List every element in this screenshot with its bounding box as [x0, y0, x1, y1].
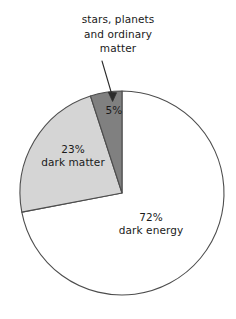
pie-chart-canvas	[0, 0, 236, 319]
pie-chart-figure: stars, planets and ordinary matter 5% 23…	[0, 0, 236, 319]
